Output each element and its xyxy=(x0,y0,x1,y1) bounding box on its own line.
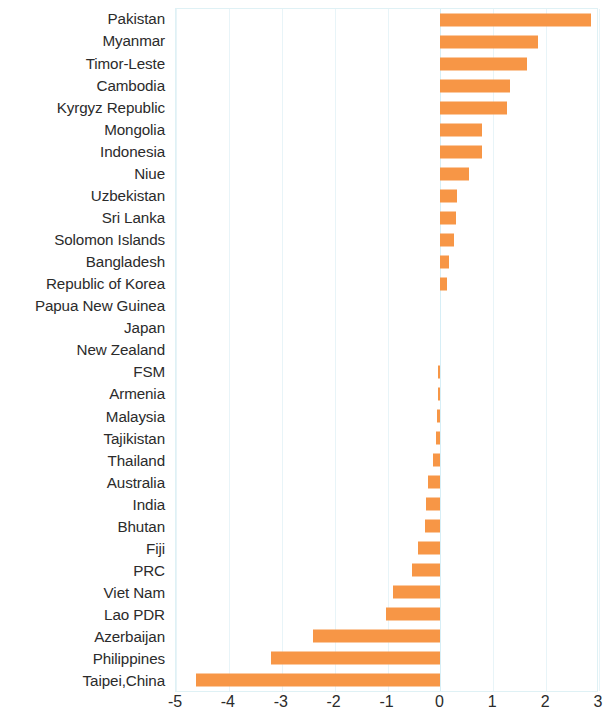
bar-row xyxy=(176,119,597,141)
bar-row xyxy=(176,405,597,427)
category-label: New Zealand xyxy=(0,339,171,361)
bar[interactable] xyxy=(271,652,440,665)
bar-row xyxy=(176,581,597,603)
bar-row xyxy=(176,75,597,97)
bar-row xyxy=(176,273,597,295)
category-label: Australia xyxy=(0,471,171,493)
bar[interactable] xyxy=(418,542,440,555)
category-label: Taipei,China xyxy=(0,670,171,692)
bar[interactable] xyxy=(313,630,440,643)
gridline xyxy=(599,9,600,691)
bar[interactable] xyxy=(440,80,510,93)
bar[interactable] xyxy=(438,366,440,379)
bar-row xyxy=(176,515,597,537)
category-label: Philippines xyxy=(0,648,171,670)
bar[interactable] xyxy=(440,190,457,203)
value-tick-label: 3 xyxy=(594,694,603,710)
bar[interactable] xyxy=(437,410,440,423)
category-label: Papua New Guinea xyxy=(0,295,171,317)
bar-row xyxy=(176,53,597,75)
bar-row xyxy=(176,427,597,449)
bar[interactable] xyxy=(412,564,440,577)
bar-row xyxy=(176,471,597,493)
category-label: FSM xyxy=(0,361,171,383)
bar[interactable] xyxy=(440,234,454,247)
bar-row xyxy=(176,603,597,625)
bar[interactable] xyxy=(440,278,446,291)
bar-row xyxy=(176,669,597,691)
bar[interactable] xyxy=(433,454,440,467)
category-label: Japan xyxy=(0,317,171,339)
bar[interactable] xyxy=(393,586,440,599)
bar[interactable] xyxy=(440,36,538,49)
category-label: Indonesia xyxy=(0,140,171,162)
category-label: Malaysia xyxy=(0,405,171,427)
bar[interactable] xyxy=(196,674,441,687)
value-tick-label: -5 xyxy=(168,694,182,710)
category-label: Bangladesh xyxy=(0,251,171,273)
bar-row xyxy=(176,163,597,185)
bar[interactable] xyxy=(440,146,481,159)
category-label: Niue xyxy=(0,162,171,184)
category-label: Armenia xyxy=(0,383,171,405)
bar-row xyxy=(176,185,597,207)
category-label: Solomon Islands xyxy=(0,229,171,251)
bar-row xyxy=(176,493,597,515)
bar-row xyxy=(176,97,597,119)
category-label: PRC xyxy=(0,560,171,582)
bar[interactable] xyxy=(428,476,440,489)
bar-row xyxy=(176,361,597,383)
bar[interactable] xyxy=(440,102,507,115)
bar[interactable] xyxy=(426,498,441,511)
bar-row xyxy=(176,251,597,273)
category-label: India xyxy=(0,493,171,515)
bar[interactable] xyxy=(440,256,448,269)
category-label: Mongolia xyxy=(0,118,171,140)
bar[interactable] xyxy=(440,212,456,225)
value-tick-label: -1 xyxy=(379,694,393,710)
value-tick-label: -2 xyxy=(327,694,341,710)
value-axis: -5-4-3-2-10123 xyxy=(175,694,598,722)
category-label: Lao PDR xyxy=(0,604,171,626)
category-label: Uzbekistan xyxy=(0,185,171,207)
bar[interactable] xyxy=(440,124,481,137)
bar-row xyxy=(176,647,597,669)
bar[interactable] xyxy=(440,58,527,71)
bar-row xyxy=(176,449,597,471)
value-tick-label: -3 xyxy=(274,694,288,710)
value-tick-label: 0 xyxy=(435,694,444,710)
bar-row xyxy=(176,339,597,361)
bar-row xyxy=(176,31,597,53)
category-label: Bhutan xyxy=(0,515,171,537)
category-label: Cambodia xyxy=(0,74,171,96)
bar-row xyxy=(176,207,597,229)
category-label: Fiji xyxy=(0,538,171,560)
value-tick-label: 1 xyxy=(488,694,497,710)
category-label: Timor-Leste xyxy=(0,52,171,74)
category-label: Tajikistan xyxy=(0,427,171,449)
horizontal-bar-chart: PakistanMyanmarTimor-LesteCambodiaKyrgyz… xyxy=(0,0,608,724)
bars-layer xyxy=(176,9,597,691)
category-axis: PakistanMyanmarTimor-LesteCambodiaKyrgyz… xyxy=(0,8,171,692)
bar-row xyxy=(176,317,597,339)
category-label: Sri Lanka xyxy=(0,207,171,229)
value-tick-label: 2 xyxy=(541,694,550,710)
category-label: Myanmar xyxy=(0,30,171,52)
value-tick-label: -4 xyxy=(221,694,235,710)
bar[interactable] xyxy=(438,388,441,401)
bar-row xyxy=(176,625,597,647)
bar[interactable] xyxy=(425,520,441,533)
bar-row xyxy=(176,9,597,31)
category-label: Azerbaijan xyxy=(0,626,171,648)
bar[interactable] xyxy=(436,432,441,445)
bar-row xyxy=(176,559,597,581)
bar-row xyxy=(176,141,597,163)
bar-row xyxy=(176,383,597,405)
bar[interactable] xyxy=(440,14,591,27)
plot-area xyxy=(175,8,598,692)
category-label: Republic of Korea xyxy=(0,273,171,295)
bar-row xyxy=(176,229,597,251)
bar[interactable] xyxy=(386,608,440,621)
bar[interactable] xyxy=(440,168,469,181)
category-label: Kyrgyz Republic xyxy=(0,96,171,118)
